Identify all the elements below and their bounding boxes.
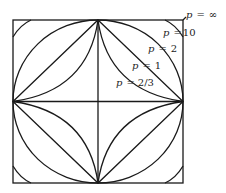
curve-p-10-tl: [13, 20, 31, 37]
label-p-2: p=2: [148, 43, 177, 54]
label-p-2-3: p=2/3: [116, 77, 154, 88]
label-p-10: p=10: [163, 27, 196, 38]
label-p-infinity: p=∞: [186, 9, 217, 20]
p-norm-unit-ball-diagram: p=∞ p=10 p=2 p=1 p=2/3: [0, 0, 226, 193]
label-p-1: p=1: [132, 60, 161, 71]
curve-p-10-br: [165, 166, 183, 183]
curve-p-10-bl: [13, 166, 31, 183]
